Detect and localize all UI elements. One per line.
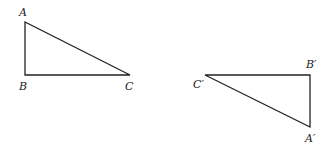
vertex-label-c-prime: C′ [193, 78, 204, 91]
triangle-abc: A B C [18, 6, 134, 93]
vertex-label-c: C [125, 80, 134, 93]
vertex-label-b: B [18, 80, 27, 93]
triangle-prime-outline [205, 75, 310, 127]
vertex-label-b-prime: B′ [305, 58, 317, 71]
triangle-abc-outline [25, 22, 130, 75]
vertex-label-a-prime: A′ [304, 132, 316, 145]
vertex-label-a: A [18, 6, 27, 19]
triangle-a-prime-b-prime-c-prime: A′ B′ C′ [193, 58, 317, 145]
triangle-diagram: A B C A′ B′ C′ [0, 0, 330, 157]
